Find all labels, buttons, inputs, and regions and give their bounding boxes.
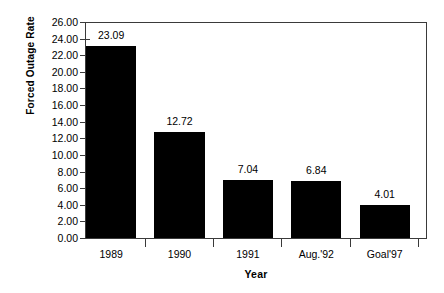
bar-chart: Forced Outage Rate 26.0024.0022.0020.001… [0, 0, 444, 293]
y-axis-tick-label: 20.00 [32, 67, 78, 77]
y-axis-tick-label: 18.00 [32, 83, 78, 93]
bar [86, 46, 136, 238]
x-axis-tick-mark [281, 238, 282, 247]
y-axis-tick-label: 0.00 [32, 233, 78, 243]
x-axis-tick-label: 1991 [211, 248, 285, 260]
bar-value-label: 23.09 [76, 30, 146, 41]
y-axis-tick-label: 12.00 [32, 133, 78, 143]
x-axis-tick-mark [145, 238, 146, 247]
y-axis-tick-label: 14.00 [32, 117, 78, 127]
x-axis-tick-mark [350, 238, 351, 247]
bar [223, 180, 273, 238]
x-axis-title: Year [85, 268, 427, 280]
y-axis-tick-label: 6.00 [32, 183, 78, 193]
x-axis-tick-mark [213, 238, 214, 247]
y-axis-tick-label: 2.00 [32, 216, 78, 226]
x-axis-tick-label: 1989 [74, 248, 148, 260]
y-axis-tick-label: 8.00 [32, 167, 78, 177]
y-axis-tick-mark [80, 238, 90, 239]
x-axis-tick-label: Aug.'92 [279, 248, 353, 260]
y-axis-tick-label: 26.00 [32, 17, 78, 27]
bars-layer [85, 22, 427, 238]
y-axis-tick-labels: 26.0024.0022.0020.0018.0016.0014.0012.00… [30, 0, 78, 293]
bar-value-label: 4.01 [350, 189, 420, 200]
y-axis-tick-label: 10.00 [32, 150, 78, 160]
x-axis-tick-label: 1990 [142, 248, 216, 260]
bar [291, 181, 341, 238]
x-axis-tick-mark [418, 238, 419, 247]
y-axis-tick-label: 24.00 [32, 34, 78, 44]
bar-value-label: 6.84 [281, 165, 351, 176]
y-axis-tick-label: 4.00 [32, 200, 78, 210]
bar [360, 205, 410, 238]
y-axis-tick-label: 22.00 [32, 50, 78, 60]
bar [154, 132, 204, 238]
x-axis-tick-label: Goal'97 [348, 248, 422, 260]
y-axis-tick-label: 16.00 [32, 100, 78, 110]
bar-value-label: 12.72 [144, 116, 214, 127]
bar-value-label: 7.04 [213, 164, 283, 175]
